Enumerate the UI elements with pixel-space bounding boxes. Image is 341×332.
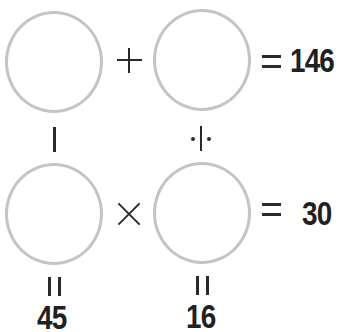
- cell-bottom-right[interactable]: [153, 162, 251, 264]
- column2-result: 16: [186, 299, 215, 332]
- times-icon: [118, 203, 140, 225]
- row2-result: 30: [302, 196, 331, 230]
- equals-icon-row1: [262, 55, 281, 68]
- equals-icon-row2: [262, 203, 281, 216]
- column1-result: 45: [37, 300, 66, 332]
- divide-icon-vertical: [190, 126, 212, 151]
- cell-bottom-left[interactable]: [5, 163, 103, 265]
- minus-icon-vertical: [52, 127, 56, 152]
- equals-icon-col2: [196, 276, 209, 295]
- plus-icon: [117, 48, 142, 73]
- cell-top-right[interactable]: [153, 9, 251, 111]
- row1-result: 146: [290, 43, 334, 77]
- cell-top-left[interactable]: [5, 11, 103, 113]
- equals-icon-col1: [48, 277, 61, 296]
